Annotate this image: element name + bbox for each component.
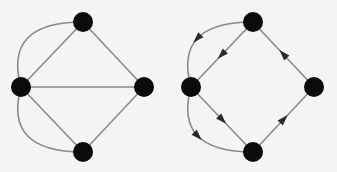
graph-canvas <box>0 0 337 172</box>
node-left <box>181 77 201 97</box>
edge-top-right <box>83 22 144 87</box>
edge-bottom-right <box>83 87 144 152</box>
node-top <box>73 12 93 32</box>
edge-left-bottom <box>21 87 83 152</box>
node-bottom <box>243 142 263 162</box>
undirected-graph <box>11 12 154 162</box>
node-right <box>304 77 324 97</box>
directed-graph <box>181 12 324 162</box>
node-left <box>11 77 31 97</box>
node-bottom <box>73 142 93 162</box>
node-right <box>134 77 154 97</box>
node-top <box>243 12 263 32</box>
edge-top-left <box>21 22 83 87</box>
